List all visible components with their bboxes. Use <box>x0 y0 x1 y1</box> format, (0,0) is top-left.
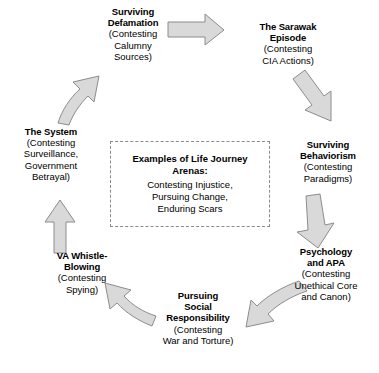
center-callout-body: Contesting Injustice, Pursuing Change, E… <box>147 179 233 215</box>
node-title: The System <box>2 126 100 137</box>
node-title: The Sarawak Episode <box>238 21 338 43</box>
node-pursuing-social-responsibility: Pursuing Social Responsibility (Contesti… <box>146 290 250 346</box>
node-surviving-behaviorism: Surviving Behaviorism (Contesting Paradi… <box>280 139 376 184</box>
node-subtitle: (Contesting Surveillance, Government Bet… <box>2 137 100 182</box>
center-callout-title: Examples of Life Journey Arenas: <box>132 153 247 177</box>
node-psychology-and-apa: Psychology and APA (Contesting Unethical… <box>276 246 376 302</box>
arrow-behaviorism-to-psychology <box>297 194 334 248</box>
node-the-system: The System (Contesting Surveillance, Gov… <box>2 126 100 182</box>
node-title: Psychology and APA <box>276 246 376 268</box>
node-subtitle: (Contesting CIA Actions) <box>238 43 338 65</box>
node-subtitle: (Contesting Paradigms) <box>280 161 376 183</box>
node-title: Pursuing Social Responsibility <box>146 290 250 324</box>
node-title: Surviving Defamation <box>84 6 182 28</box>
arrow-sarawak-to-behaviorism <box>293 70 331 121</box>
node-subtitle: (Contesting Spying) <box>36 272 128 294</box>
arrow-system-to-defamation <box>58 76 99 125</box>
center-callout-box: Examples of Life Journey Arenas: Contest… <box>110 141 270 227</box>
cycle-diagram: Surviving Defamation (Contesting Calumny… <box>0 0 379 373</box>
node-subtitle: (Contesting Calumny Sources) <box>84 28 182 62</box>
node-va-whistle-blowing: VA Whistle- Blowing (Contesting Spying) <box>36 250 128 295</box>
arrow-va-to-system <box>45 200 75 253</box>
node-the-sarawak-episode: The Sarawak Episode (Contesting CIA Acti… <box>238 21 338 66</box>
node-subtitle: (Contesting Unethical Core and Canon) <box>276 268 376 302</box>
node-title: Surviving Behaviorism <box>280 139 376 161</box>
node-subtitle: (Contesting War and Torture) <box>146 324 250 346</box>
node-surviving-defamation: Surviving Defamation (Contesting Calumny… <box>84 6 182 62</box>
node-title: VA Whistle- Blowing <box>36 250 128 272</box>
